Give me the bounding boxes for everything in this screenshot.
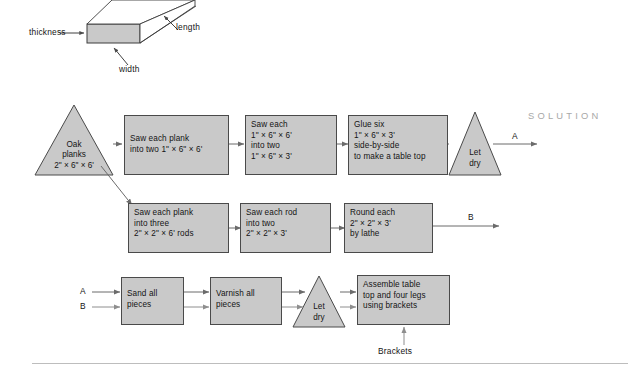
node-saw-plank-into-three-rods[interactable]: Saw each plank into three 2" × 2" × 6' r… bbox=[128, 203, 229, 253]
connector-label-a-in: A bbox=[80, 286, 86, 296]
node-oak-planks-label: Oak planks 2" × 6" × 6' bbox=[35, 140, 113, 175]
label-width: width bbox=[119, 64, 140, 74]
node-saw-each-6ft-into-two[interactable]: Saw each 1" × 6" × 6' into two 1" × 6" ×… bbox=[245, 115, 337, 175]
node-round-by-lathe[interactable]: Round each 2" × 2" × 3' by lathe bbox=[344, 203, 433, 253]
connector-label-b-in: B bbox=[80, 301, 86, 311]
node-saw-each-plank-6ft[interactable]: Saw each plank into two 1" × 6" × 6' bbox=[124, 115, 229, 175]
node-varnish-all-pieces[interactable]: Varnish all pieces bbox=[210, 277, 282, 325]
footer-rule bbox=[32, 363, 628, 364]
node-let-dry-2[interactable]: Let dry bbox=[293, 276, 345, 327]
node-oak-planks[interactable]: Oak planks 2" × 6" × 6' bbox=[35, 105, 113, 175]
node-let-dry-1-label: Let dry bbox=[449, 148, 501, 175]
node-let-dry-2-label: Let dry bbox=[293, 302, 345, 327]
connector-label-b-out: B bbox=[468, 212, 474, 222]
section-label-solution: SOLUTION bbox=[528, 110, 602, 121]
label-thickness: thickness bbox=[29, 27, 66, 37]
node-let-dry-1[interactable]: Let dry bbox=[449, 112, 501, 175]
node-assemble-table[interactable]: Assemble table top and four legs using b… bbox=[357, 275, 450, 325]
node-saw-rod-into-two[interactable]: Saw each rod into two 2" × 2" × 3' bbox=[240, 203, 331, 253]
plank-3d-sketch bbox=[60, 0, 196, 65]
node-glue-six-table-top[interactable]: Glue six 1" × 6" × 3' side-by-side to ma… bbox=[348, 115, 448, 175]
diagram-canvas: thickness length width SOLUTION Oak plan… bbox=[0, 0, 639, 373]
material-input-brackets: Brackets bbox=[378, 346, 412, 356]
label-length: length bbox=[176, 22, 200, 32]
connector-label-a-out: A bbox=[512, 131, 518, 141]
node-sand-all-pieces[interactable]: Sand all pieces bbox=[121, 277, 184, 325]
